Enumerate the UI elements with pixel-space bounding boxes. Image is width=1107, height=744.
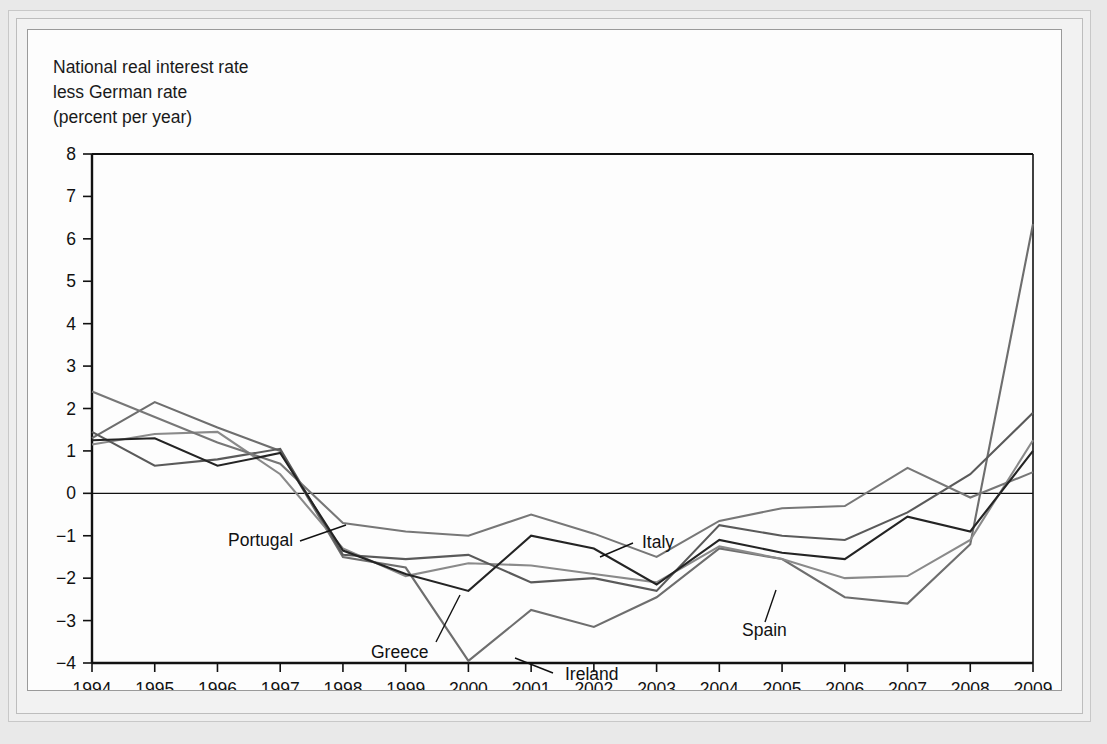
axis-title-line-3: (percent per year) [53,107,192,127]
series-lines [92,224,1033,661]
x-axis-ticks: 1994199519961997199819992000200120022003… [73,663,1053,691]
y-tick-label: 7 [66,186,76,206]
y-tick-label: 4 [66,314,76,334]
y-tick-label: −3 [56,611,76,631]
series-label-ireland: Ireland [565,664,619,684]
y-axis-ticks: 876543210−1−2−3−4 [56,144,92,673]
series-label-spain: Spain [742,620,787,640]
leader-line-spain [765,590,776,622]
x-tick-label: 2001 [512,679,551,691]
x-tick-label: 2000 [449,679,488,691]
series-label-portugal: Portugal [228,530,293,550]
x-tick-label: 2008 [951,679,990,691]
series-label-italy: Italy [642,532,674,552]
y-tick-label: 0 [66,483,76,503]
line-chart: National real interest rate less German … [28,30,1062,691]
axis-title-line-2: less German rate [53,82,187,102]
x-tick-label: 1996 [198,679,237,691]
x-tick-label: 1998 [323,679,362,691]
x-tick-label: 1995 [135,679,174,691]
y-tick-label: −1 [56,526,76,546]
chart-axis-title: National real interest rate less German … [53,57,249,127]
y-tick-label: −2 [56,568,76,588]
x-tick-label: 1999 [386,679,425,691]
series-annotations: PortugalGreeceIrelandItalySpain [228,525,787,684]
series-line-spain [92,438,1033,591]
y-tick-label: 3 [66,356,76,376]
series-line-greece [92,432,1033,583]
x-tick-label: 2009 [1014,679,1053,691]
y-tick-label: 2 [66,399,76,419]
y-tick-label: 8 [66,144,76,164]
series-line-portugal [92,413,1033,591]
leader-line-portugal [300,525,346,541]
x-tick-label: 2003 [637,679,676,691]
leader-line-ireland [515,658,553,673]
x-tick-label: 2004 [700,679,739,691]
x-tick-label: 1994 [73,679,112,691]
screenshot-page: National real interest rate less German … [0,0,1107,744]
y-tick-label: −4 [56,653,76,673]
series-label-greece: Greece [371,642,428,662]
leader-line-italy [600,543,633,557]
figure-card: National real interest rate less German … [27,29,1062,691]
y-tick-label: 1 [66,441,76,461]
x-tick-label: 2005 [763,679,802,691]
axis-title-line-1: National real interest rate [53,57,249,77]
x-tick-label: 2007 [888,679,927,691]
y-tick-label: 5 [66,271,76,291]
y-tick-label: 6 [66,229,76,249]
x-tick-label: 2006 [825,679,864,691]
x-tick-label: 1997 [261,679,300,691]
plot-frame [92,154,1033,663]
